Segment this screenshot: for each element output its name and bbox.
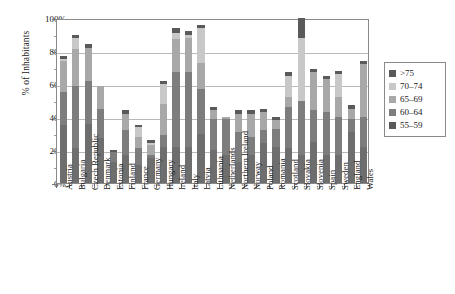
x-axis-label: Romania <box>278 158 287 190</box>
legend-label: >75 <box>400 69 414 78</box>
legend-item[interactable]: 55–59 <box>389 119 442 132</box>
stacked-bar-chart: % of Inhabitants 0%20%40%60%80%100% Aust… <box>0 0 455 294</box>
x-axis-label: Czech Republic <box>91 134 100 190</box>
x-axis-label: Austria <box>65 164 74 190</box>
legend-label: 60–64 <box>400 108 423 117</box>
x-axis-label: Netherlands <box>228 147 237 190</box>
legend-item[interactable]: 65–69 <box>389 93 442 106</box>
legend-swatch-icon <box>389 109 396 116</box>
x-axis-labels: AustriaBulgariaCzech RepublicDenmarkEsto… <box>0 0 455 294</box>
x-axis-label: Denmark <box>103 157 112 190</box>
x-axis-label: England <box>353 161 362 190</box>
x-axis-label: Lithuania <box>216 156 225 190</box>
x-axis-label: Hungary <box>166 159 175 190</box>
x-axis-label: Northern Ireland <box>241 131 250 190</box>
legend-item[interactable]: >75 <box>389 67 442 80</box>
x-axis-label: Italy <box>191 174 200 190</box>
legend-swatch-icon <box>389 83 396 90</box>
x-axis-label: Germany <box>153 157 162 190</box>
x-axis-label: Finland <box>128 163 137 190</box>
x-axis-label: Bulgaria <box>78 160 87 190</box>
x-axis-label: Poland <box>266 166 275 190</box>
legend-swatch-icon <box>389 96 396 103</box>
x-axis-label: France <box>141 166 150 190</box>
x-axis-label: Scotland <box>291 159 300 190</box>
x-axis-label: Wales <box>366 169 375 190</box>
x-axis-label: Slovakia <box>303 159 312 190</box>
legend: >7570–7465–6960–6455–59 <box>384 62 446 137</box>
x-axis-label: Sweden <box>341 162 350 190</box>
legend-swatch-icon <box>389 122 396 129</box>
x-axis-label: Norway <box>253 162 262 190</box>
x-axis-label: Estonia <box>116 164 125 190</box>
legend-item[interactable]: 70–74 <box>389 80 442 93</box>
legend-item[interactable]: 60–64 <box>389 106 442 119</box>
x-axis-label: Spain <box>328 170 337 190</box>
x-axis-label: Latvia <box>203 167 212 190</box>
x-axis-label: Slovenia <box>316 159 325 190</box>
x-axis-label: Ireland <box>178 165 187 190</box>
legend-label: 55–59 <box>400 121 423 130</box>
legend-label: 70–74 <box>400 82 423 91</box>
legend-label: 65–69 <box>400 95 423 104</box>
legend-swatch-icon <box>389 70 396 77</box>
